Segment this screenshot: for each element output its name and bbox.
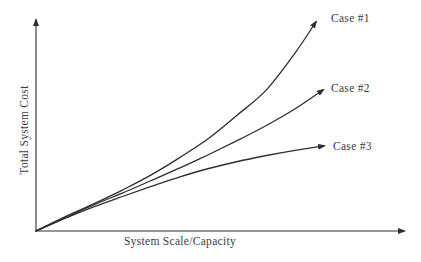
series-curves (36, 22, 324, 231)
cost-vs-scale-chart: Total System Cost System Scale/Capacity … (0, 0, 421, 262)
axes (36, 20, 404, 231)
series-curve-case-1 (36, 22, 316, 231)
series-label-case-2: Case #2 (331, 82, 370, 94)
x-axis-label: System Scale/Capacity (124, 235, 236, 247)
y-axis-label: Total System Cost (18, 85, 30, 174)
plot-canvas (0, 0, 421, 262)
series-label-case-3: Case #3 (333, 140, 372, 152)
series-curve-case-3 (36, 146, 324, 231)
series-label-case-1: Case #1 (331, 12, 370, 24)
